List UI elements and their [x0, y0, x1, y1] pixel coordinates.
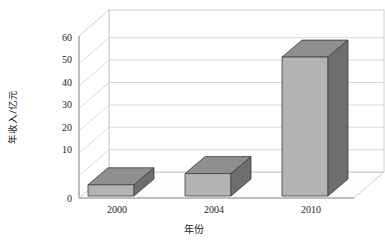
bar-2004-front [185, 174, 231, 196]
y-axis-title: 年收入/亿元 [7, 90, 18, 143]
y-tick-30: 30 [62, 99, 72, 110]
bar-2010[interactable] [282, 40, 348, 196]
x-axis-title-text: 年份 [184, 223, 204, 235]
y-tick-0: 0 [67, 193, 72, 204]
y-tick-20: 20 [62, 122, 72, 133]
bar-2010-side [328, 40, 348, 196]
plot-left-wall [79, 10, 109, 198]
y-tick-60: 60 [62, 32, 72, 43]
y-axis-title-text: 年收入/亿元 [7, 90, 18, 143]
x-tick-2004: 2004 [204, 204, 224, 215]
x-tick-2000: 2000 [107, 204, 127, 215]
x-tick-labels: 2000 2004 2010 [107, 204, 321, 215]
chart-container: 60 50 40 30 20 10 0 年收入/亿元 [0, 0, 385, 246]
bar-chart-3d: 60 50 40 30 20 10 0 年收入/亿元 [0, 0, 385, 246]
y-tick-labels: 60 50 40 30 20 10 0 [62, 32, 72, 204]
y-tick-40: 40 [62, 77, 72, 88]
y-tick-50: 50 [62, 54, 72, 65]
bar-2000-front [88, 185, 134, 196]
y-tick-10: 10 [62, 144, 72, 155]
bar-2010-front [282, 57, 328, 196]
x-tick-2010: 2010 [301, 204, 321, 215]
